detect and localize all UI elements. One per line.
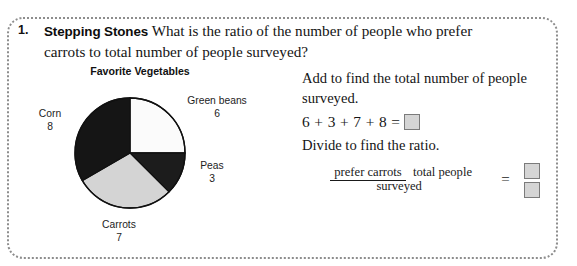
pie-label-peas-name: Peas <box>200 160 223 171</box>
solution-instruction-add: Add to find the total number of people s… <box>302 68 532 108</box>
pie-label-green-beans: Green beans 6 <box>174 95 260 120</box>
chart-title: Favorite Vegetables <box>50 65 230 77</box>
pie-label-carrots-name: Carrots <box>102 219 136 230</box>
pie-label-carrots: Carrots 7 <box>88 219 150 244</box>
ratio-answer-box-numerator[interactable] <box>524 163 540 179</box>
pie-label-green-beans-value: 6 <box>174 108 260 121</box>
favorite-vegetables-chart: Favorite Vegetables Corn 8 Green beans 6… <box>30 62 280 252</box>
ratio-expression: prefer carrots total people surveyed = <box>306 161 550 198</box>
problem-statement: Stepping Stones What is the ratio of the… <box>44 21 484 61</box>
ratio-answer-box-denominator[interactable] <box>524 182 540 198</box>
pie-label-corn: Corn 8 <box>29 108 71 133</box>
pie-label-peas-value: 3 <box>190 173 234 186</box>
pie-label-corn-name: Corn <box>39 108 61 119</box>
ratio-fraction-words: prefer carrots total people surveyed <box>306 165 496 193</box>
solution-panel: Add to find the total number of people s… <box>302 68 550 198</box>
ratio-answer-fraction <box>515 161 550 198</box>
problem-label: Stepping Stones <box>44 24 148 39</box>
solution-equation-row: 6 + 3 + 7 + 8 = <box>302 112 550 132</box>
solution-equation-text: 6 + 3 + 7 + 8 = <box>302 112 400 132</box>
pie-label-green-beans-name: Green beans <box>187 95 247 106</box>
pie-label-peas: Peas 3 <box>190 160 234 185</box>
equation-answer-box[interactable] <box>404 114 420 130</box>
pie-label-carrots-value: 7 <box>88 232 150 245</box>
ratio-equals-sign: = <box>501 171 509 188</box>
pie-label-corn-value: 8 <box>29 121 71 134</box>
solution-instruction-divide: Divide to find the ratio. <box>302 135 550 155</box>
problem-number: 1. <box>18 23 28 37</box>
